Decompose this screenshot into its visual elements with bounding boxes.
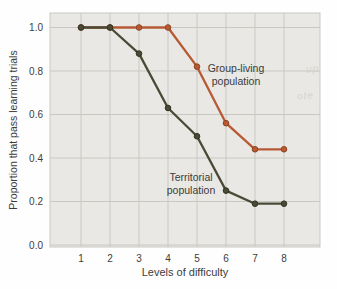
y-tick-label: 1.0	[29, 22, 43, 33]
y-axis-title: Proportion that pass learning trials	[7, 50, 19, 209]
line-chart-figure: 0.00.20.40.60.81.012345678 up ote Group-…	[0, 0, 337, 289]
x-axis-title: Levels of difficulty	[50, 266, 320, 278]
x-tick-label: 6	[223, 253, 229, 264]
x-tick-label: 1	[78, 253, 84, 264]
y-tick-label: 0.0	[29, 240, 43, 251]
x-tick-label: 4	[165, 253, 171, 264]
y-tick-label: 0.4	[29, 153, 43, 164]
x-tick-label: 7	[252, 253, 258, 264]
x-tick-label: 5	[194, 253, 200, 264]
y-tick-label: 0.6	[29, 109, 43, 120]
plot-area: 0.00.20.40.60.81.012345678	[0, 0, 337, 289]
series-label-territorial: Territorial population	[167, 171, 215, 196]
x-tick-label: 8	[281, 253, 287, 264]
x-tick-label: 3	[136, 253, 142, 264]
x-tick-label: 2	[107, 253, 113, 264]
y-tick-label: 0.8	[29, 66, 43, 77]
plot-background	[50, 13, 320, 247]
series-label-group-living: Group-living population	[208, 62, 265, 87]
y-tick-label: 0.2	[29, 196, 43, 207]
